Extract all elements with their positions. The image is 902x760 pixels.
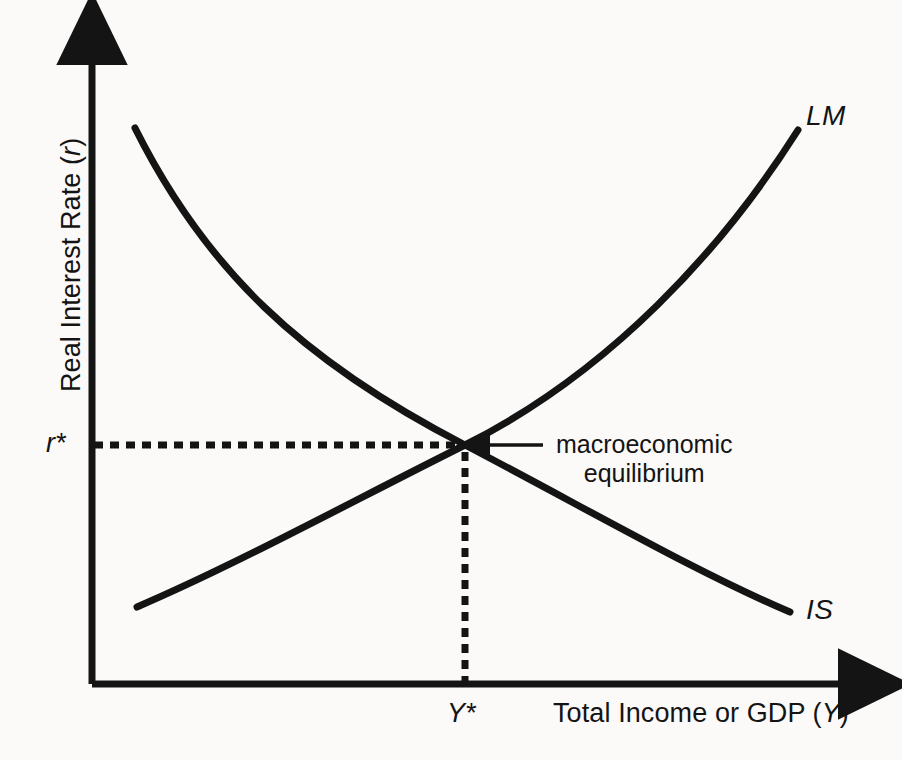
y-star-asterisk: *: [465, 698, 476, 728]
r-star-tick-label: r*: [46, 428, 66, 458]
x-axis-title-suffix: ): [840, 698, 849, 728]
is-curve-label: IS: [806, 594, 833, 625]
y-star-tick-label: Y*: [447, 698, 476, 728]
equilibrium-annotation: macroeconomicequilibrium: [556, 430, 732, 488]
diagram-canvas: [0, 0, 902, 760]
x-axis-title-variable: Y: [822, 698, 840, 728]
is-lm-diagram: Real Interest Rate (r) Total Income or G…: [0, 0, 902, 760]
y-axis-title-variable: r: [56, 147, 86, 156]
y-axis-title-prefix: Real Interest Rate (: [56, 156, 86, 392]
r-star-variable: r: [46, 428, 55, 458]
x-axis-title: Total Income or GDP (Y): [553, 698, 849, 728]
lm-curve-label: LM: [806, 100, 846, 131]
x-axis-title-prefix: Total Income or GDP (: [553, 698, 822, 728]
y-axis-title: Real Interest Rate (r): [56, 138, 86, 392]
equilibrium-annotation-line1: macroeconomic: [556, 430, 732, 458]
r-star-asterisk: *: [55, 428, 66, 458]
equilibrium-annotation-line2: equilibrium: [584, 459, 705, 487]
y-axis-title-suffix: ): [56, 138, 86, 147]
y-star-variable: Y: [447, 698, 465, 728]
